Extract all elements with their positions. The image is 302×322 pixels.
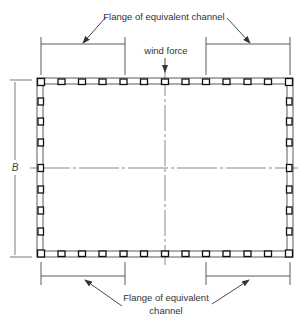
bottom-flange-label-line2: channel (149, 305, 182, 316)
top-flange-dimensions (41, 37, 290, 75)
bottom-flange-dimensions (41, 262, 290, 285)
dimension-b-label: B (12, 162, 19, 173)
centerlines (30, 70, 298, 265)
top-flange-label: Flange of equivalent channel (103, 11, 224, 22)
tube-frame-diagram: Flange of equivalent channel wind force … (0, 0, 302, 322)
wind-force-label: wind force (143, 45, 187, 56)
bottom-flange-label-line1: Flange of equivalent (123, 292, 209, 303)
